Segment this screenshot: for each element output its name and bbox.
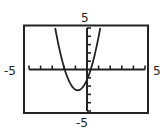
parabola-curve [55, 28, 100, 90]
ymin-label: -5 [76, 117, 88, 129]
axes [29, 28, 145, 111]
xmax-label: 5 [153, 65, 161, 77]
xmin-label: -5 [4, 65, 16, 77]
ymax-label: 5 [81, 12, 89, 24]
